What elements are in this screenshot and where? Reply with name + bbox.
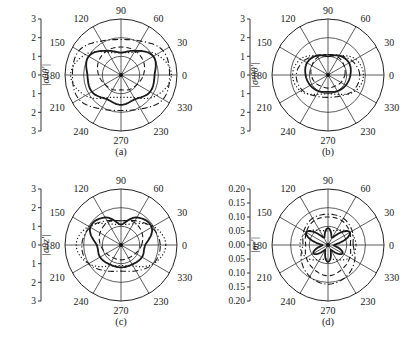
radial-tick-label: 2 (31, 278, 36, 288)
radial-tick-label: 3 (31, 184, 36, 194)
angle-label: 0 (182, 240, 187, 251)
panel-caption: (c) (115, 316, 127, 328)
angle-label: 60 (154, 13, 164, 24)
angle-label: 210 (50, 272, 65, 283)
angle-label: 30 (177, 37, 187, 48)
polar-plot-b: 03060901201501802102402702303303210123|σ… (240, 5, 399, 159)
angle-label: 330 (384, 102, 399, 113)
angle-label: 90 (116, 175, 126, 186)
panel-caption: (b) (322, 146, 335, 158)
radial-tick-label: 0.05 (228, 254, 245, 264)
angle-label: 90 (323, 5, 333, 16)
angle-label: 60 (361, 13, 371, 24)
grid-spoke (300, 27, 328, 75)
y-axis-label: |σθθ'| (40, 64, 51, 86)
radial-tick-label: 3 (240, 126, 245, 136)
radial-tick-label: 1 (240, 89, 245, 99)
angle-label: 240 (281, 126, 296, 137)
radial-tick-label: 1 (31, 259, 36, 269)
radial-tick-label: 0.10 (228, 268, 245, 278)
polar-plot-d: 03060901201501802102402702303300.200.150… (228, 175, 399, 329)
angle-label: 120 (281, 13, 296, 24)
angle-label: 330 (384, 272, 399, 283)
radial-tick-label: 3 (31, 14, 36, 24)
radial-tick-label: 0.15 (228, 198, 245, 208)
angle-label: 240 (74, 296, 89, 307)
angle-label: 90 (323, 175, 333, 186)
radial-tick-label: 2 (240, 33, 245, 43)
angle-label: 210 (50, 102, 65, 113)
angle-label: 120 (281, 183, 296, 194)
grid-spoke (280, 47, 328, 75)
center-point (326, 73, 330, 77)
radial-tick-label: 0.15 (228, 282, 245, 292)
grid-spoke (280, 245, 328, 273)
angle-label: 240 (74, 126, 89, 137)
y-axis-label: |σr'| (249, 237, 260, 253)
angle-label: 240 (281, 296, 296, 307)
radial-tick-label: 3 (31, 126, 36, 136)
figure-canvas: 03060901201501802102402702303303210123|σ… (0, 0, 406, 343)
angle-label: 210 (257, 272, 272, 283)
radial-tick-label: 0.20 (228, 296, 245, 306)
radial-tick-label: 2 (240, 108, 245, 118)
panel-caption: (a) (115, 146, 127, 158)
grid-spoke (300, 75, 328, 123)
center-point (119, 243, 123, 247)
angle-label: 330 (177, 102, 192, 113)
radial-tick-label: 1 (240, 52, 245, 62)
angle-label: 60 (154, 183, 164, 194)
angle-label: 270 (321, 305, 336, 316)
angle-label: 270 (321, 135, 336, 146)
radial-tick-label: 0 (31, 70, 36, 80)
radial-tick-label: 1 (31, 89, 36, 99)
angle-label: 0 (182, 70, 187, 81)
radial-tick-label: 2 (31, 203, 36, 213)
y-axis-label: |σθz'| (40, 234, 51, 255)
angle-label: 230 (154, 296, 169, 307)
angle-label: 270 (114, 135, 129, 146)
center-point (119, 73, 123, 77)
radial-tick-label: 3 (240, 14, 245, 24)
radial-tick-label: 0.10 (228, 212, 245, 222)
angle-label: 120 (74, 13, 89, 24)
angle-label: 150 (50, 207, 65, 218)
angle-label: 30 (384, 37, 394, 48)
radial-tick-label: 0 (240, 70, 245, 80)
panel-caption: (d) (322, 316, 335, 328)
radial-tick-label: 2 (31, 33, 36, 43)
angle-label: 230 (361, 296, 376, 307)
grid-spoke (328, 75, 376, 103)
angle-label: 30 (177, 207, 187, 218)
grid-spoke (328, 75, 356, 123)
radial-tick-label: 0.20 (228, 184, 245, 194)
radial-tick-label: 1 (31, 52, 36, 62)
grid-spoke (121, 75, 169, 103)
angle-label: 230 (154, 126, 169, 137)
angle-label: 90 (116, 5, 126, 16)
grid-spoke (328, 27, 356, 75)
radial-tick-label: 1 (31, 222, 36, 232)
angle-label: 60 (361, 183, 371, 194)
center-point (326, 243, 330, 247)
angle-label: 210 (257, 102, 272, 113)
angle-label: 230 (361, 126, 376, 137)
angle-label: 120 (74, 183, 89, 194)
angle-label: 150 (257, 37, 272, 48)
angle-label: 0 (389, 240, 394, 251)
radial-tick-label: 2 (31, 108, 36, 118)
angle-label: 0 (389, 70, 394, 81)
angle-label: 270 (114, 305, 129, 316)
radial-tick-label: 0 (31, 240, 36, 250)
angle-label: 330 (177, 272, 192, 283)
angle-label: 150 (257, 207, 272, 218)
y-axis-label: |σᵖθθ'| (249, 62, 260, 87)
angle-label: 30 (384, 207, 394, 218)
radial-tick-label: 0.00 (228, 240, 245, 250)
angle-label: 150 (50, 37, 65, 48)
polar-plot-a: 03060901201501802102402702303303210123|σ… (31, 5, 192, 159)
radial-tick-label: 3 (31, 296, 36, 306)
grid-spoke (280, 75, 328, 103)
radial-tick-label: 0.05 (228, 226, 245, 236)
polar-plot-c: 03060901201501802102402702303303210123|σ… (31, 175, 192, 329)
